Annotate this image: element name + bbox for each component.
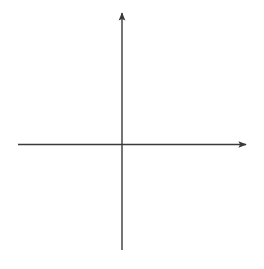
graph	[0, 0, 264, 269]
